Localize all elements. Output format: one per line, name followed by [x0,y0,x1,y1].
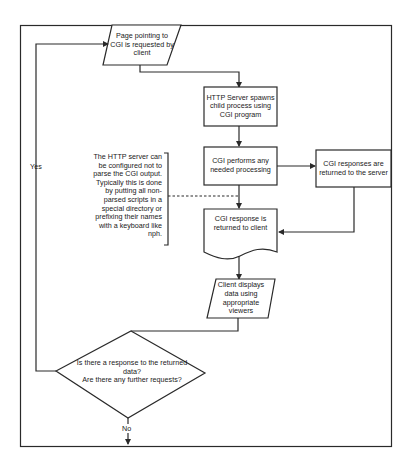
edge-server-client [279,187,354,232]
node-request-label: Page pointing to CGI is requested by cli… [110,26,174,64]
flowchart-canvas [0,0,412,469]
annotation-bracket [164,153,168,245]
edge-label-yes: Yes [30,162,42,171]
node-client-return-label: CGI response is returned to client [207,211,274,237]
node-display-label: Client displays data using appropriate v… [213,280,269,317]
node-decision-label: Is there a response to the returned data… [68,356,196,388]
edge-label-no: No [122,424,131,433]
annotation-text: The HTTP server can be configured not to… [92,153,162,239]
decision-line-2: Are there any further requests? [82,376,181,385]
edge-display-decision [131,318,238,331]
node-spawn-label: HTTP Server spawns child process using C… [205,88,276,125]
edge-request-spawn [140,65,239,87]
decision-line-1: Is there a response to the returned data… [68,359,196,376]
node-server-return-label: CGI responses are returned to the server [317,151,390,186]
node-process-label: CGI performs any needed processing [206,148,275,184]
